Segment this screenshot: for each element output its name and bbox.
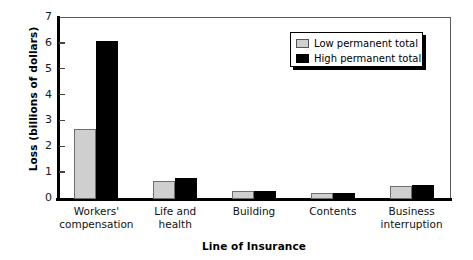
bar-low-4: [390, 186, 412, 199]
x-category-label: Businessinterruption: [372, 205, 451, 230]
x-category-label: Workers'compensation: [57, 205, 136, 230]
legend-item-low: Low permanent total: [296, 36, 417, 50]
bar-high-1: [175, 178, 197, 199]
x-category-label: Contents: [293, 205, 372, 218]
x-category-line: Business: [372, 205, 451, 218]
bar-low-2: [232, 191, 254, 199]
legend-swatch-low-icon: [296, 39, 309, 48]
bar-high-4: [412, 185, 434, 199]
bar-high-0: [96, 41, 118, 199]
bar-low-3: [311, 193, 333, 199]
legend-label-low: Low permanent total: [314, 38, 418, 49]
x-axis-title: Line of Insurance: [57, 240, 451, 252]
chart-legend: Low permanent total High permanent total: [290, 32, 423, 67]
bar-low-0: [74, 129, 96, 199]
x-category-line: compensation: [57, 218, 136, 231]
bar-low-1: [153, 181, 175, 199]
legend-item-high: High permanent total: [296, 51, 417, 65]
legend-label-high: High permanent total: [314, 53, 421, 64]
x-category-line: Life and: [136, 205, 215, 218]
x-category-line: Workers': [57, 205, 136, 218]
bar-chart-figure: Loss (billions of dollars) 01234567 Work…: [0, 0, 473, 260]
x-category-line: interruption: [372, 218, 451, 231]
x-category-line: health: [136, 218, 215, 231]
bar-high-2: [254, 191, 276, 199]
bar-high-3: [333, 193, 355, 199]
legend-swatch-high-icon: [296, 54, 309, 63]
x-category-line: Building: [215, 205, 294, 218]
x-category-line: Contents: [293, 205, 372, 218]
x-category-label: Building: [215, 205, 294, 218]
x-category-label: Life andhealth: [136, 205, 215, 230]
